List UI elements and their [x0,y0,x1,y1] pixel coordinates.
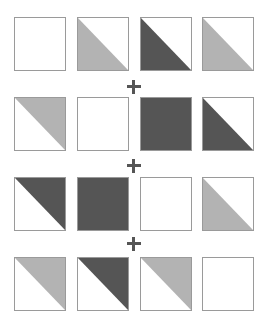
tile-r1-c2 [77,17,129,71]
tile-r4-c1 [14,257,66,311]
tile-r4-c3 [140,257,192,311]
tile-r3-c4 [202,177,254,231]
tile-r4-c4 [202,257,254,311]
tile-r1-c3 [140,17,192,71]
tile-r1-c4 [202,17,254,71]
tile-r2-c3 [140,97,192,151]
tile-r3-c1 [14,177,66,231]
plus-icon [127,159,141,173]
tile-r2-c4 [202,97,254,151]
tile-r2-c2 [77,97,129,151]
plus-icon [127,80,141,94]
tile-r3-c2 [77,177,129,231]
plus-icon [127,237,141,251]
tile-r1-c1 [14,17,66,71]
tile-r3-c3 [140,177,192,231]
tile-r4-c2 [77,257,129,311]
tile-r2-c1 [14,97,66,151]
